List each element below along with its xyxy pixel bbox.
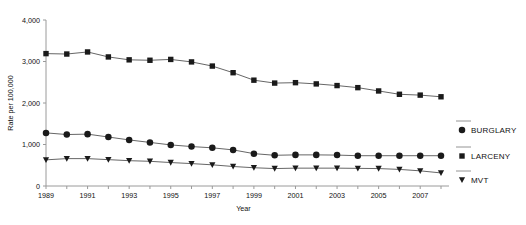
x-axis-title: Year: [236, 204, 251, 213]
data-point-square: [147, 58, 152, 63]
series-larceny: [43, 49, 443, 99]
y-axis-tick-label: 1,000: [22, 140, 40, 149]
data-point-square: [210, 63, 215, 68]
data-point-square: [43, 51, 48, 56]
data-point-square: [397, 92, 402, 97]
legend-item-mvt[interactable]: MVT: [456, 171, 489, 185]
data-point-square: [106, 54, 111, 59]
legend-item-larceny[interactable]: LARCENY: [456, 147, 511, 161]
x-axis-tick-label: 2005: [371, 191, 387, 200]
data-point-square: [126, 57, 131, 62]
series-line: [46, 52, 441, 97]
data-point-circle: [167, 142, 174, 149]
legend-item-burglary[interactable]: BURGLARY: [456, 121, 517, 135]
x-axis-tick-label: 1993: [121, 191, 137, 200]
data-point-square: [459, 153, 464, 158]
data-point-square: [438, 94, 443, 99]
x-axis-tick-label: 1995: [163, 191, 179, 200]
data-point-square: [85, 49, 90, 54]
series-mvt: [43, 156, 444, 176]
x-axis-tick-label: 1989: [38, 191, 54, 200]
y-axis-title: Rate per 100,000: [6, 75, 15, 131]
y-axis-tick-label: 4,000: [22, 16, 40, 25]
y-axis-tick-label: 3,000: [22, 57, 40, 66]
data-point-square: [168, 57, 173, 62]
data-point-circle: [43, 130, 50, 137]
data-point-circle: [459, 127, 466, 134]
line-chart: 01,0002,0003,0004,000Rate per 100,000198…: [0, 0, 526, 225]
series-burglary: [43, 130, 445, 159]
y-axis-tick-label: 0: [36, 182, 40, 191]
x-axis-tick-label: 1991: [80, 191, 96, 200]
data-point-square: [355, 85, 360, 90]
data-point-square: [314, 81, 319, 86]
data-point-circle: [251, 150, 258, 157]
x-axis-tick-label: 2007: [412, 191, 428, 200]
y-axis-tick-label: 2,000: [22, 99, 40, 108]
data-point-circle: [417, 152, 424, 159]
data-point-circle: [313, 152, 320, 159]
data-point-circle: [230, 147, 237, 154]
series-line: [46, 159, 441, 173]
data-point-square: [376, 88, 381, 93]
data-point-circle: [126, 137, 133, 144]
x-axis-tick-label: 1997: [204, 191, 220, 200]
data-point-square: [64, 51, 69, 56]
data-point-square: [272, 80, 277, 85]
data-point-circle: [64, 131, 71, 138]
legend-label: MVT: [471, 176, 489, 185]
data-point-circle: [147, 139, 154, 146]
data-point-circle: [355, 152, 362, 159]
legend-label: LARCENY: [471, 152, 511, 161]
x-axis-tick-label: 1999: [246, 191, 262, 200]
data-point-triangle: [459, 177, 465, 183]
data-point-circle: [271, 152, 278, 159]
data-point-square: [334, 83, 339, 88]
x-axis-tick-label: 2001: [287, 191, 303, 200]
data-point-square: [230, 70, 235, 75]
data-point-circle: [105, 134, 112, 141]
data-point-circle: [209, 145, 216, 152]
data-point-square: [251, 77, 256, 82]
chart-figure: 01,0002,0003,0004,000Rate per 100,000198…: [0, 0, 526, 225]
data-point-circle: [375, 152, 382, 159]
data-point-circle: [84, 131, 91, 138]
legend-label: BURGLARY: [471, 126, 517, 135]
data-point-circle: [438, 152, 445, 159]
data-point-circle: [292, 152, 299, 159]
data-point-circle: [334, 152, 341, 159]
data-point-circle: [188, 143, 195, 150]
data-point-square: [293, 80, 298, 85]
data-point-circle: [396, 152, 403, 159]
x-axis-tick-label: 2003: [329, 191, 345, 200]
data-point-square: [189, 59, 194, 64]
data-point-square: [418, 92, 423, 97]
